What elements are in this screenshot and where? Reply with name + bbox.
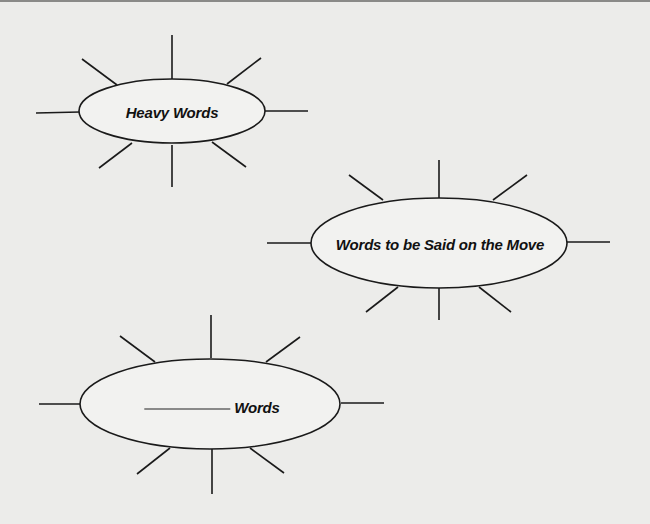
spoke-top-left [82,59,117,85]
spoke-bottom-left [137,448,170,474]
spoke-bottom-left [99,143,132,168]
spoke-bottom-right [212,142,246,167]
fill-in-blank-line [144,409,230,410]
spoke-top-right [493,175,527,200]
spoke-top-right [227,58,261,84]
spoke-bottom-left [366,287,398,312]
spoke-top-left [120,336,155,362]
spoke-bottom-right [250,448,284,473]
heavy-words-label: Heavy Words [126,104,219,121]
spoke-bottom-right [479,287,511,312]
blank-words-text: Words [234,399,279,416]
blank-words-label: Words [144,399,279,416]
spoke-left [36,112,80,113]
diagram-canvas [0,0,650,524]
words-on-the-move-label: Words to be Said on the Move [336,236,544,253]
spoke-top-left [349,175,383,200]
spoke-top-right [266,337,300,362]
